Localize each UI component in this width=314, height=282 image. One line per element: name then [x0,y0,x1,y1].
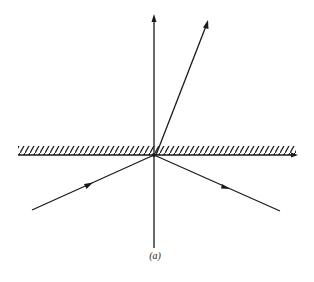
figure-caption: (a) [140,250,170,261]
incident-arrow-icon [84,183,93,190]
incidence-point [152,153,156,157]
refracted-arrow-icon [203,20,209,29]
normal-arrow-icon [152,14,157,22]
reflected-ray [154,155,280,211]
reflected-arrow-icon [221,184,230,189]
refracted-ray [156,26,206,155]
ray-diagram [0,0,314,282]
